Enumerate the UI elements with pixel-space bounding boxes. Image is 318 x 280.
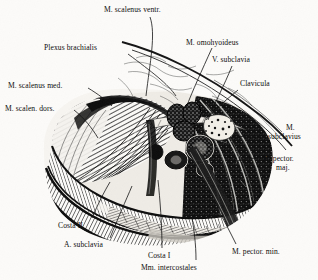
label-costa-i: Costa I <box>148 252 170 261</box>
label-plexus-brachialis: Plexus brachialis <box>44 44 97 53</box>
label-m-scalenus-med: M. scalenus med. <box>8 82 62 91</box>
label-costa-ii: Costa II <box>58 222 83 231</box>
anatomical-plate: M. scalenus ventr. Plexus brachialis M. … <box>0 0 318 280</box>
label-m-scalenus-ventr: M. scalenus ventr. <box>104 6 161 15</box>
label-mm-intercostales: Mm. intercostales <box>141 264 197 273</box>
label-v-subclavia: V. subclavia <box>212 56 250 65</box>
label-m-scalen-dors: M. scalen. dors. <box>5 105 55 114</box>
label-clavicula: Clavicula <box>240 80 270 89</box>
label-m-pector-maj-line2: maj. <box>276 164 290 173</box>
label-m-omohyoideus: M. omohyoideus <box>186 39 239 48</box>
label-m-subclavius-line2: subclavius <box>268 133 301 142</box>
label-a-subclavia: A. subclavia <box>64 241 103 250</box>
label-m-pector-min: M. pector. min. <box>232 248 280 257</box>
